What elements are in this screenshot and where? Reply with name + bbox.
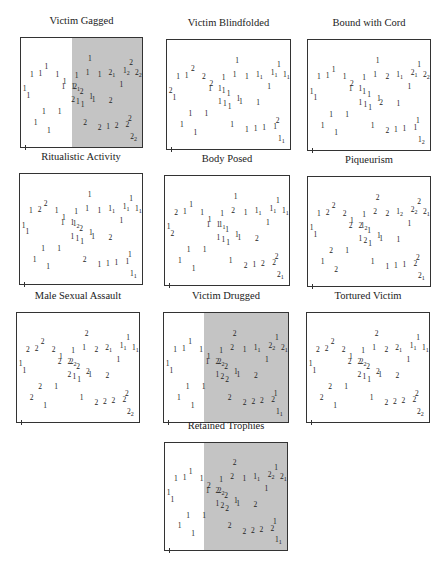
data-point-label: 1 (277, 60, 281, 67)
data-point-label: 1 (199, 345, 203, 352)
data-point-label: 2 (254, 372, 258, 379)
data-point-label: 11 (254, 344, 261, 354)
data-point-label: 1 (192, 264, 196, 271)
data-point-label: 1 (200, 208, 204, 215)
plot-area: 1211111112112221112122111121111122122222… (20, 37, 143, 148)
scatter-panel: Male Sexual Assault212222112211111112222… (6, 287, 150, 423)
data-point-label: 2 (343, 209, 347, 216)
data-point-label: 1 (202, 511, 206, 518)
data-point-label: 11 (108, 205, 115, 215)
data-point-label: 1 (207, 352, 211, 359)
data-point-label: 1 (92, 96, 96, 103)
data-point-label: 2 (108, 233, 112, 240)
data-point-label: 1 (189, 201, 193, 208)
data-point-label: 1 (379, 235, 383, 242)
data-point-label: 1 (129, 195, 133, 202)
data-point-label: 2 (270, 524, 274, 531)
data-point-label: 2 (251, 398, 255, 405)
data-point-label: 2 (230, 473, 234, 480)
data-point-label: 21 (281, 344, 288, 354)
data-point-label: 2 (202, 72, 206, 79)
data-point-label: 2 (233, 459, 237, 466)
data-point-label: 1 (219, 476, 223, 483)
data-point-label: 1 (334, 129, 338, 136)
plot-area: 1111111121121221111111112111111121111121… (307, 39, 431, 151)
data-point-label: 2 (395, 372, 399, 379)
data-point-label: 1 (75, 234, 79, 241)
data-point-label: 1 (312, 366, 316, 373)
data-point-label: 1 (238, 234, 242, 241)
data-point-label: 1 (183, 474, 187, 481)
data-point-label: 2 (38, 206, 42, 213)
data-point-label: 2 (225, 505, 229, 512)
data-point-label: 1 (237, 371, 241, 378)
data-point-label: 2 (412, 396, 416, 403)
data-point-label: 1 (370, 393, 374, 400)
data-point-label: 2 (316, 345, 320, 352)
data-point-label: 1 (368, 240, 372, 247)
plot-area: 1112111211111111211111111121111112122221… (164, 175, 290, 286)
data-point-label: 1 (30, 70, 34, 77)
data-point-label: 2 (326, 208, 330, 215)
data-point-label: 11 (120, 342, 127, 352)
data-point-label: 2 (109, 97, 113, 104)
data-point-label: 1 (254, 125, 258, 132)
data-point-label: 1 (256, 99, 260, 106)
data-point-label: 1 (120, 80, 124, 87)
scatter-panel: Victim Drugged21111112111222111222212211… (153, 287, 299, 423)
data-point-label: 1 (417, 61, 421, 68)
data-point-label: 2 (30, 393, 34, 400)
data-point-label: 1 (178, 256, 182, 263)
panel-title: Piqueurism (297, 154, 441, 165)
data-point-label: 2 (251, 526, 255, 533)
data-point-label: 1 (321, 257, 325, 264)
panel-title: Male Sexual Assault (6, 290, 150, 301)
data-point-label: 2 (220, 373, 224, 380)
data-point-label: 1 (38, 69, 42, 76)
data-point-label: 1 (245, 72, 249, 79)
data-point-label: 2 (224, 363, 228, 370)
data-point-label: 1 (186, 383, 190, 390)
data-point-label: 1 (371, 121, 375, 128)
data-point-label: 1 (371, 257, 375, 264)
data-point-label: 2 (79, 224, 83, 231)
data-point-label: 1 (216, 234, 220, 241)
data-point-label: 1 (176, 72, 180, 79)
data-point-label: 1 (266, 218, 270, 225)
data-point-label: 11 (132, 344, 139, 354)
data-point-label: 1 (182, 344, 186, 351)
data-point-label: 1 (72, 373, 76, 380)
data-point-label: 12 (418, 136, 425, 146)
scatter-panel: Piqueurism222122122122221112121121111121… (297, 151, 441, 287)
data-point-label: 1 (97, 261, 101, 268)
data-point-label: 2 (230, 343, 234, 350)
data-point-label: 1 (74, 208, 78, 215)
data-point-label: 1 (274, 463, 278, 470)
data-point-label: 1 (216, 499, 220, 506)
data-point-label: 11 (256, 71, 263, 81)
plot-area: 2111111211122211122221221121111122221211… (164, 442, 288, 551)
data-point-label: 1 (188, 338, 192, 345)
data-point-label: 11 (271, 69, 278, 79)
data-point-label: 2 (393, 398, 397, 405)
data-point-label: 1 (273, 123, 277, 130)
data-point-label: 1 (22, 366, 26, 373)
data-point-label: 2 (260, 525, 264, 532)
data-point-label: 1 (191, 401, 195, 408)
data-point-label: 2 (253, 500, 257, 507)
data-point-label: 2 (255, 235, 259, 242)
data-point-label: 1 (229, 256, 233, 263)
scatter-panel: Ritualistic Activity11212111111111111112… (9, 148, 153, 285)
data-point-label: 2 (103, 398, 107, 405)
data-point-label: 2 (207, 481, 211, 488)
data-point-label: 2 (122, 396, 126, 403)
data-point-label: 1 (125, 257, 129, 264)
data-point-label: 21 (277, 271, 284, 281)
data-point-label: 2 (260, 397, 264, 404)
data-point-label: 1 (376, 56, 380, 63)
data-point-label: 2 (225, 376, 229, 383)
data-point-label: 1 (243, 345, 247, 352)
data-point-label: 2 (224, 492, 228, 499)
data-point-label: 2 (228, 393, 232, 400)
data-point-label: 2 (385, 73, 389, 80)
